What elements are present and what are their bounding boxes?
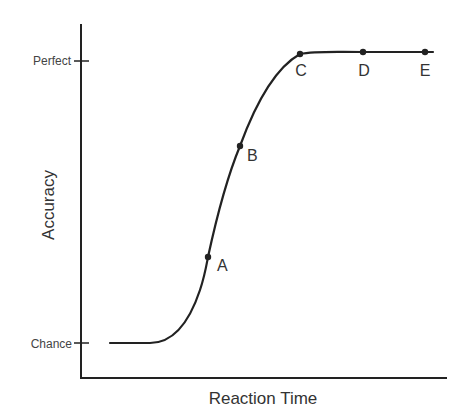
chance-tick-label: Chance <box>31 337 73 351</box>
accuracy-curve <box>110 52 433 343</box>
point-b <box>237 143 243 149</box>
speed-accuracy-chart: Perfect Chance A B C D E Reaction Time A… <box>0 0 468 415</box>
point-b-label: B <box>247 147 258 164</box>
point-c <box>297 51 303 57</box>
point-d <box>360 49 366 55</box>
point-a-label: A <box>217 257 228 274</box>
y-axis-title: Accuracy <box>39 170 58 240</box>
perfect-tick-label: Perfect <box>33 54 72 68</box>
point-a <box>205 254 211 260</box>
point-e <box>422 49 428 55</box>
point-c-label: C <box>295 62 307 79</box>
point-e-label: E <box>420 62 431 79</box>
point-d-label: D <box>358 62 370 79</box>
x-axis-title: Reaction Time <box>209 389 318 408</box>
